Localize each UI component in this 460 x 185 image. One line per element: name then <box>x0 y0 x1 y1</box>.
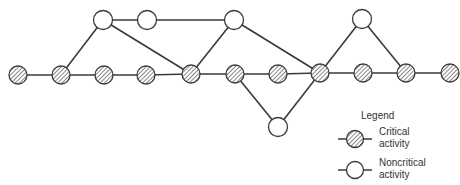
edge-t4-n10 <box>362 19 406 73</box>
edge-n5-t3 <box>191 20 234 74</box>
legend-symbols <box>338 131 372 179</box>
noncritical-activity-node <box>269 118 288 137</box>
critical-activity-node <box>52 66 70 84</box>
critical-activity-node <box>137 66 155 84</box>
noncritical-activity-node <box>225 11 244 30</box>
noncritical-activity-node <box>353 10 372 29</box>
critical-activity-node <box>95 66 113 84</box>
noncritical-activity-node <box>94 11 113 30</box>
critical-activity-node <box>9 66 27 84</box>
legend-noncritical-node-icon <box>347 162 364 179</box>
critical-activity-node <box>269 65 287 83</box>
critical-activity-node <box>354 64 372 82</box>
critical-activity-node <box>311 64 329 82</box>
activity-network-diagram: Legend Critical activity Noncritical act… <box>0 0 460 185</box>
edge-n8-t4 <box>320 19 362 73</box>
legend-critical-node-icon <box>347 131 364 148</box>
edge-n6-b1 <box>235 74 278 127</box>
critical-activity-node <box>397 64 415 82</box>
critical-activity-node <box>226 65 244 83</box>
critical-activity-node <box>441 64 459 82</box>
noncritical-activity-node <box>138 11 157 30</box>
edge-n2-t1 <box>61 20 103 75</box>
legend-noncritical-label-1: Noncritical <box>379 157 426 168</box>
legend-noncritical-label-2: activity <box>379 169 410 180</box>
legend-critical-label-2: activity <box>379 138 410 149</box>
critical-activity-node <box>182 65 200 83</box>
legend-title: Legend <box>361 110 394 121</box>
legend-critical-label-1: Critical <box>379 126 410 137</box>
